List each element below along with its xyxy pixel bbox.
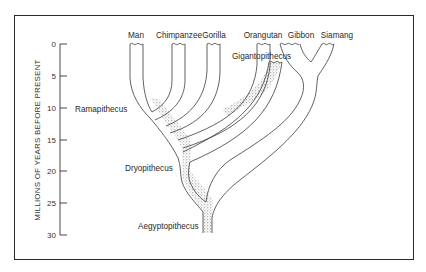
tick-10: 10 [47,104,56,113]
tick-0: 0 [52,40,57,49]
label-aegyptopithecus: Aegyptopithecus [138,222,199,231]
tick-25: 25 [47,199,56,208]
tick-20: 20 [47,167,56,176]
label-gibbon: Gibbon [288,31,315,40]
time-axis: 0 5 10 15 20 25 30 MILLIONS OF YEARS BEF… [33,40,67,240]
axis-title: MILLIONS OF YEARS BEFORE PRESENT [33,59,42,220]
tick-5: 5 [52,72,57,81]
label-gorilla: Gorilla [202,31,226,40]
label-man: Man [128,31,144,40]
label-gigantopithecus: Gigantopithecus [232,52,291,61]
label-ramapithecus: Ramapithecus [75,105,127,114]
tick-30: 30 [47,231,56,240]
phylogeny-diagram: 0 5 10 15 20 25 30 MILLIONS OF YEARS BEF… [0,0,426,272]
label-dryopithecus: Dryopithecus [125,164,173,173]
branch-lines [130,44,334,233]
tick-15: 15 [47,136,56,145]
label-chimpanzee: Chimpanzee [156,31,202,40]
label-orangutan: Orangutan [244,31,283,40]
label-siamang: Siamang [321,31,354,40]
